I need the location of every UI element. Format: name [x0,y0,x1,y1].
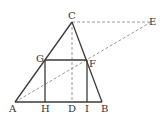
label-point-h: H [41,103,50,114]
label-point-a: A [8,103,17,114]
geometry-diagram: AHDIBCGFE [0,0,167,114]
label-point-e: E [149,16,156,27]
point-labels: AHDIBCGFE [8,10,156,114]
label-point-f: F [89,58,96,69]
label-point-c: C [68,10,76,21]
label-point-i: I [85,103,89,114]
label-point-d: D [68,103,76,114]
label-point-b: B [101,103,108,114]
label-point-g: G [36,53,44,64]
